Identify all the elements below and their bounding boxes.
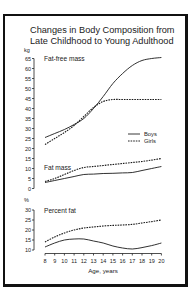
fat-free-mass-boys-line (45, 58, 161, 138)
x-tick-label: 10 (61, 258, 67, 264)
percent-fat-girls-line (45, 220, 161, 242)
chart-title-line1: Changes in Body Composition from (30, 25, 175, 35)
legend-boys-label: Boys (144, 131, 157, 137)
pct-unit-label: % (24, 197, 29, 203)
kg-tick-label: 15 (25, 156, 31, 162)
percent-fat-boys-line (45, 239, 161, 249)
body-composition-chart: Changes in Body Composition from Late Ch… (0, 0, 196, 289)
x-tick-label: 19 (149, 258, 155, 264)
x-tick-label: 13 (90, 258, 96, 264)
x-tick-label: 17 (129, 258, 135, 264)
x-tick-label: 14 (100, 258, 106, 264)
chart-title-line2: Late Childhood to Young Adulthood (30, 36, 174, 46)
pct-tick-label: 25 (25, 217, 31, 223)
kg-tick-label: 45 (25, 96, 31, 102)
x-tick-label: 18 (139, 258, 145, 264)
x-tick-label: 16 (120, 258, 126, 264)
legend: Boys Girls (128, 131, 157, 144)
percent-y-axis: 3025201510 (25, 207, 34, 253)
panel-label-fat-free-mass: Fat-free mass (44, 55, 85, 62)
kg-unit-label: kg (24, 47, 30, 53)
x-tick-label: 11 (71, 258, 77, 264)
kg-tick-label: 40 (25, 106, 31, 112)
series-layer (45, 58, 161, 250)
kg-tick-label: 55 (25, 76, 31, 82)
x-axis-label: Age, years (88, 267, 118, 274)
x-tick-label: 12 (81, 258, 87, 264)
legend-girls-label: Girls (144, 138, 156, 144)
x-tick-label: 9 (53, 258, 56, 264)
kg-tick-label: 10 (25, 166, 31, 172)
kg-tick-label: 20 (25, 146, 31, 152)
kg-tick-label: 65 (25, 56, 31, 62)
pct-tick-label: 20 (25, 227, 31, 233)
kg-tick-label: 0 (28, 186, 31, 192)
kg-tick-label: 60 (25, 66, 31, 72)
pct-tick-label: 15 (25, 237, 31, 243)
x-axis: 891011121314151617181920 (43, 254, 164, 264)
panel-label-percent-fat: Percent fat (44, 207, 76, 214)
x-tick-label: 20 (158, 258, 164, 264)
pct-tick-label: 10 (25, 247, 31, 253)
kg-tick-label: 25 (25, 136, 31, 142)
kg-tick-label: 5 (28, 176, 31, 182)
pct-tick-label: 30 (25, 207, 31, 213)
kg-tick-label: 30 (25, 126, 31, 132)
kg-tick-label: 50 (25, 86, 31, 92)
kg-tick-label: 35 (25, 116, 31, 122)
kg-y-axis: 65605550454035302520151050 (25, 56, 34, 192)
x-tick-label: 8 (43, 258, 46, 264)
panel-label-fat-mass: Fat mass (44, 164, 72, 171)
x-tick-label: 15 (110, 258, 116, 264)
